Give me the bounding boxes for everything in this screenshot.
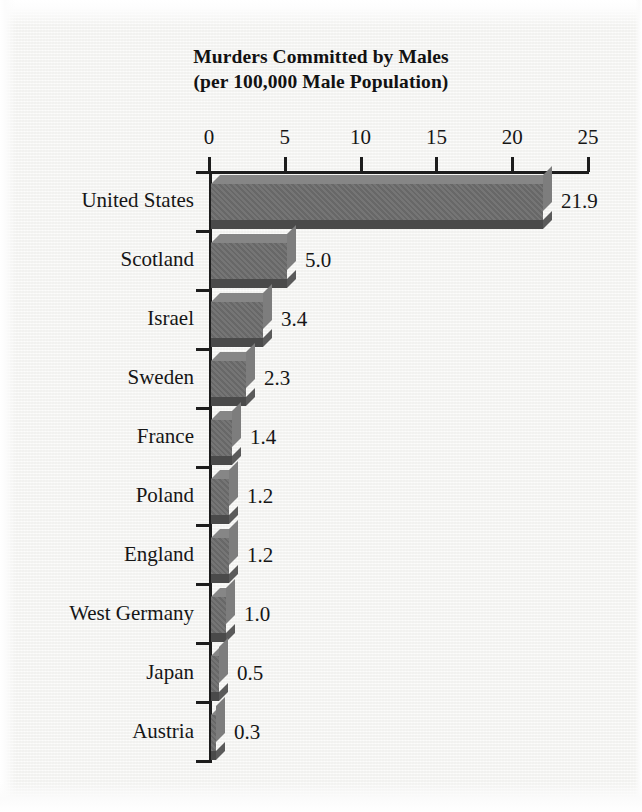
y-axis-tick: [196, 701, 212, 704]
y-axis-tick: [196, 230, 212, 233]
bar[interactable]: [211, 243, 287, 279]
bar-bottom-shadow: [211, 515, 229, 524]
category-label: Israel: [4, 306, 194, 330]
bar-value-label: 1.2: [247, 543, 273, 567]
bar-bottom-shadow: [211, 456, 232, 465]
x-axis-tick: [511, 157, 514, 172]
x-axis-tick-label: 10: [331, 125, 391, 149]
y-axis-tick: [196, 407, 212, 410]
y-axis-tick: [196, 289, 212, 292]
category-label: Poland: [4, 483, 194, 507]
category-label: England: [4, 542, 194, 566]
x-axis-tick-label: 25: [558, 125, 618, 149]
bar-side-face: [246, 343, 255, 388]
bar-bottom-shadow-side: [216, 742, 225, 760]
bar-value-label: 1.4: [250, 425, 276, 449]
bar-bottom-shadow-side: [263, 329, 272, 347]
bar-front-face: [211, 243, 287, 279]
bar[interactable]: [211, 420, 232, 456]
bar[interactable]: [211, 479, 229, 515]
category-label: France: [4, 424, 194, 448]
chart-page: Murders Committed by Males (per 100,000 …: [0, 0, 642, 812]
bar-side-face: [226, 579, 235, 624]
plot-area: 0510152025 United States21.9Scotland5.0I…: [0, 0, 642, 812]
y-axis-tick: [196, 348, 212, 351]
bar-side-face: [219, 638, 228, 683]
bar-value-label: 1.0: [244, 602, 270, 626]
category-label: Scotland: [4, 247, 194, 271]
bar-value-label: 5.0: [305, 248, 331, 272]
category-label: Japan: [4, 660, 194, 684]
bar[interactable]: [211, 715, 216, 751]
y-axis-tick: [196, 760, 212, 763]
bar-value-label: 21.9: [561, 189, 598, 213]
bar-side-face: [263, 284, 272, 329]
y-axis-tick: [196, 642, 212, 645]
bar-top-face: [211, 234, 296, 243]
x-axis-tick-label: 5: [255, 125, 315, 149]
bar-front-face: [211, 420, 232, 456]
y-axis-tick: [196, 171, 212, 174]
bar[interactable]: [211, 538, 229, 574]
x-axis-tick: [208, 157, 211, 172]
bar-bottom-shadow: [211, 279, 287, 288]
x-axis-line: [209, 171, 589, 174]
bar-side-face: [232, 402, 241, 447]
bar-bottom-shadow: [211, 220, 543, 229]
x-axis-tick: [360, 157, 363, 172]
bar-value-label: 1.2: [247, 484, 273, 508]
bar-bottom-shadow: [211, 574, 229, 583]
bar-bottom-shadow: [211, 692, 219, 701]
y-axis-tick: [196, 466, 212, 469]
bar-front-face: [211, 479, 229, 515]
bar-side-face: [543, 166, 552, 211]
category-label: West Germany: [4, 601, 194, 625]
category-label: Sweden: [4, 365, 194, 389]
x-axis-tick: [587, 157, 590, 172]
bar[interactable]: [211, 302, 263, 338]
bar-front-face: [211, 538, 229, 574]
category-label: United States: [4, 188, 194, 212]
x-axis-tick: [435, 157, 438, 172]
bar-top-face: [211, 175, 552, 184]
bar-value-label: 0.5: [237, 661, 263, 685]
bar[interactable]: [211, 597, 226, 633]
bar-value-label: 0.3: [234, 720, 260, 744]
bar-front-face: [211, 361, 246, 397]
bar-front-face: [211, 656, 219, 692]
bar-front-face: [211, 184, 543, 220]
bar-bottom-shadow-side: [543, 211, 552, 229]
bar-side-face: [216, 697, 225, 742]
bar-bottom-shadow-side: [246, 388, 255, 406]
x-axis-tick-label: 15: [406, 125, 466, 149]
bar-value-label: 2.3: [264, 366, 290, 390]
bar-side-face: [229, 520, 238, 565]
bar-value-label: 3.4: [281, 307, 307, 331]
bar-front-face: [211, 302, 263, 338]
x-axis-tick-label: 0: [179, 125, 239, 149]
bar-front-face: [211, 597, 226, 633]
category-label: Austria: [4, 719, 194, 743]
bar[interactable]: [211, 361, 246, 397]
y-axis-tick: [196, 524, 212, 527]
bar-bottom-shadow-side: [287, 270, 296, 288]
bar[interactable]: [211, 656, 219, 692]
bar-bottom-shadow: [211, 338, 263, 347]
y-axis-tick: [196, 583, 212, 586]
bar[interactable]: [211, 184, 543, 220]
bar-side-face: [287, 225, 296, 270]
bar-side-face: [229, 461, 238, 506]
x-axis-tick-label: 20: [482, 125, 542, 149]
x-axis-tick: [284, 157, 287, 172]
